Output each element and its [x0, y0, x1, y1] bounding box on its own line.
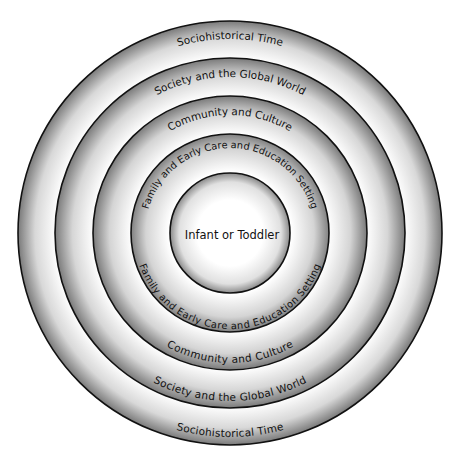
- center-label: Infant or Toddler: [185, 228, 280, 242]
- concentric-diagram: Infant or Toddler Sociohistorical Time S…: [0, 0, 456, 466]
